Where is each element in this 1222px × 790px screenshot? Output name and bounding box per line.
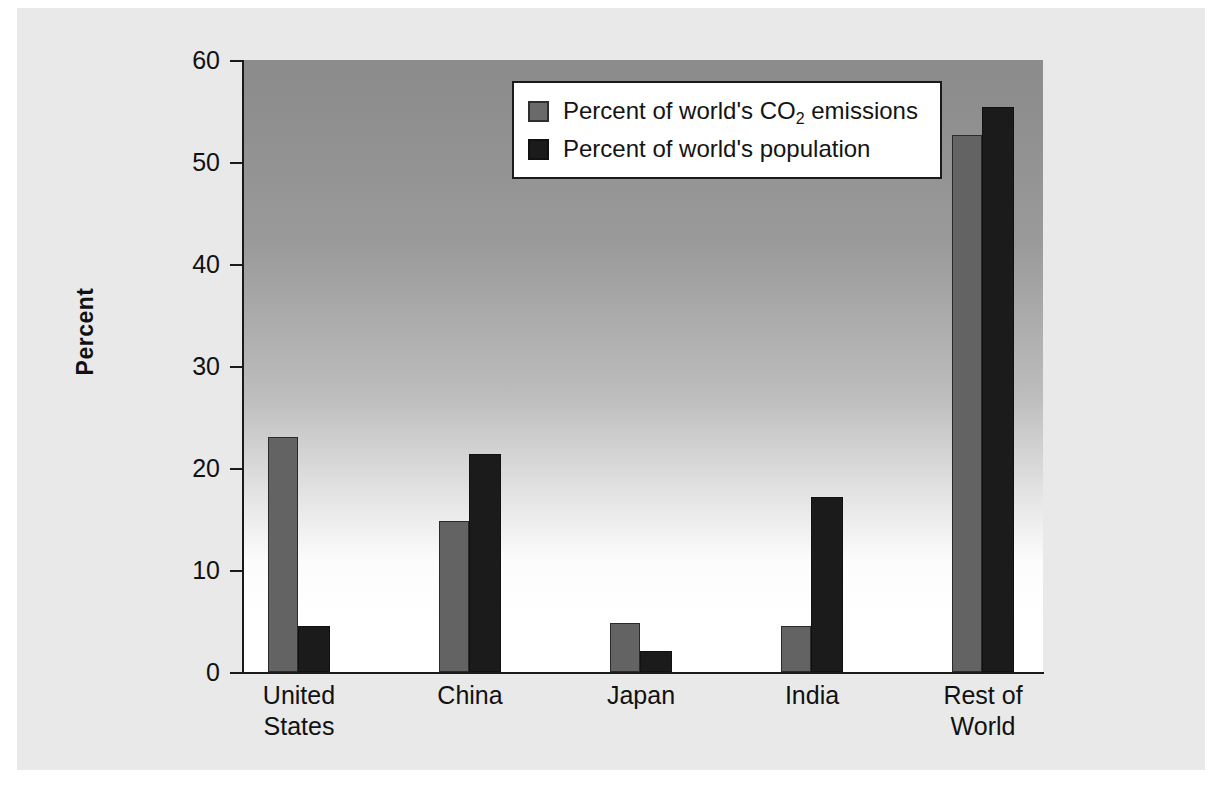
bar-india-population	[811, 497, 843, 672]
x-tick-label-united-states: United States	[199, 680, 399, 741]
legend-swatch-co2-icon	[528, 101, 549, 122]
bar-china-population	[469, 454, 501, 672]
legend-swatch-population-icon	[528, 139, 549, 160]
y-tick-label-30: 30	[160, 352, 220, 381]
legend-label-co2: Percent of world's CO2 emissions	[563, 97, 918, 125]
chart-legend: Percent of world's CO2 emissions Percent…	[512, 81, 942, 179]
y-tick-label-20: 20	[160, 454, 220, 483]
x-tick-label-china: China	[370, 680, 570, 711]
bar-rest-of-world-population	[982, 107, 1014, 672]
y-tick-label-40: 40	[160, 250, 220, 279]
legend-item-co2: Percent of world's CO2 emissions	[528, 92, 918, 130]
bar-china-co2	[439, 521, 469, 672]
x-tick-label-india: India	[712, 680, 912, 711]
x-tick-label-rest-of-world: Rest of World	[883, 680, 1083, 741]
bar-united-states-population	[298, 626, 330, 672]
bar-india-co2	[781, 626, 811, 672]
y-tick-label-50: 50	[160, 148, 220, 177]
y-axis-title: Percent	[72, 252, 99, 412]
x-axis-line	[242, 672, 1044, 674]
x-tick-label-japan: Japan	[541, 680, 741, 711]
chart-figure: Percent 60 50 40 30 20 10 0 Perc	[17, 8, 1205, 770]
bar-united-states-co2	[268, 437, 298, 672]
y-tick-label-60: 60	[160, 46, 220, 75]
bar-rest-of-world-co2	[952, 135, 982, 672]
legend-item-population: Percent of world's population	[528, 130, 918, 168]
bar-japan-co2	[610, 623, 640, 672]
y-tick-label-10: 10	[160, 556, 220, 585]
legend-label-population: Percent of world's population	[563, 135, 870, 163]
bar-japan-population	[640, 651, 672, 672]
y-axis-line	[242, 60, 244, 673]
